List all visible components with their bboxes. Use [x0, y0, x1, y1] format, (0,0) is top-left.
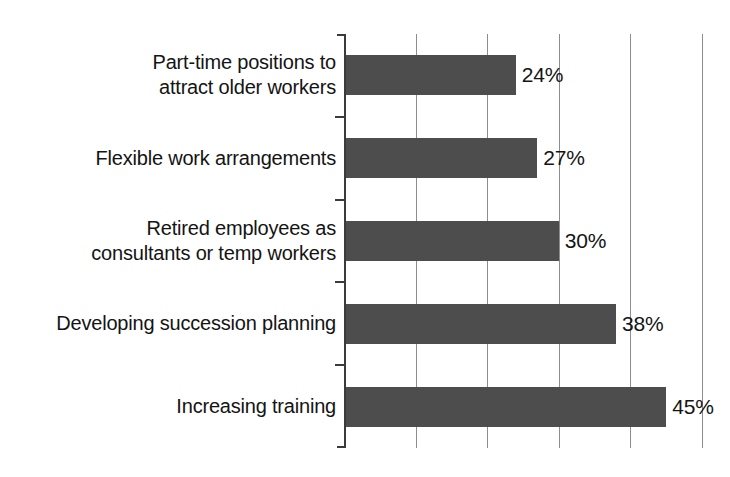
- bar: [344, 138, 537, 178]
- data-label: 45%: [672, 396, 713, 417]
- bar: [344, 387, 666, 427]
- data-label: 24%: [522, 64, 563, 85]
- bar: [344, 304, 616, 344]
- category-label: Flexible work arrangements: [6, 146, 336, 171]
- category-label: Retired employees as consultants or temp…: [6, 216, 336, 266]
- y-axis-line: [344, 34, 346, 448]
- bar: [344, 55, 516, 95]
- bar-chart: Part-time positions to attract older wor…: [0, 0, 730, 477]
- data-label: 27%: [543, 147, 584, 168]
- y-axis-top-cap: [337, 34, 346, 36]
- category-label: Increasing training: [6, 394, 336, 419]
- axis-tick: [335, 364, 345, 366]
- axis-tick: [335, 116, 345, 118]
- data-label: 38%: [622, 313, 663, 334]
- category-label: Part-time positions to attract older wor…: [6, 50, 336, 100]
- axis-tick: [335, 199, 345, 201]
- axis-tick: [335, 281, 345, 283]
- category-label-group: Part-time positions to attract older wor…: [0, 34, 336, 448]
- category-label: Developing succession planning: [6, 311, 336, 336]
- data-label: 30%: [565, 230, 606, 251]
- gridline-50: [702, 34, 703, 448]
- plot-area: [344, 34, 704, 448]
- y-axis-bottom-cap: [337, 446, 346, 448]
- bar: [344, 221, 559, 261]
